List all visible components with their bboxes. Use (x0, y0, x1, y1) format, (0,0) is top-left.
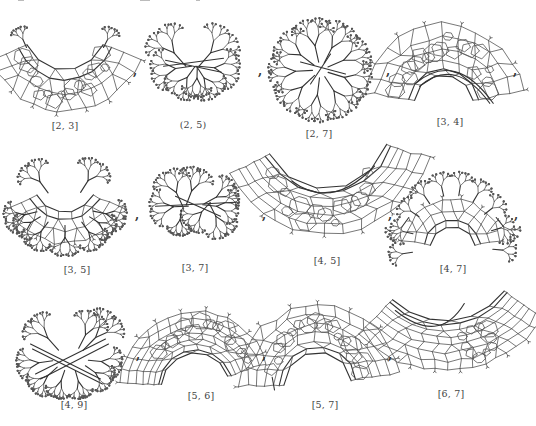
tessellation-figure-p23 (10, 25, 120, 115)
figure-label: [4, 7] (440, 263, 467, 274)
figure-label: [5, 7] (312, 399, 339, 410)
figure-label: [2, 3] (52, 120, 79, 131)
tessellation-figure-p27 (263, 20, 378, 120)
comma-separator: , (388, 348, 392, 362)
tessellation-graphic (138, 308, 253, 383)
clipped-caption-text (0, 0, 536, 4)
comma-separator: , (514, 208, 518, 222)
tessellation-figure-p45 (263, 166, 378, 241)
tessellation-graphic (10, 167, 120, 257)
comma-separator: , (136, 348, 140, 362)
tessellation-graphic (10, 308, 120, 393)
comma-separator: , (386, 64, 390, 78)
comma-separator: , (513, 64, 517, 78)
comma-separator: , (262, 208, 266, 222)
tessellation-graphic (393, 307, 508, 377)
comma-separator: , (135, 208, 139, 222)
tessellation-figure-p35 (10, 167, 120, 257)
comma-separator: , (133, 64, 137, 78)
figure-label: [3, 4] (437, 116, 464, 127)
tessellation-figure-p37 (138, 168, 253, 253)
tessellation-graphic (263, 166, 378, 241)
figure-label: [4, 9] (61, 399, 88, 410)
tessellation-graphic (136, 28, 251, 113)
tessellation-figure-p56 (138, 308, 253, 383)
tessellation-graphic (138, 168, 253, 253)
tessellation-figure-p57 (263, 305, 378, 390)
figure-label: [5, 6] (188, 390, 215, 401)
tessellation-graphic (263, 305, 378, 390)
tessellation-figure-p49 (10, 308, 120, 393)
tessellation-figure-p25 (136, 28, 251, 113)
tessellation-graphic (392, 20, 507, 105)
figure-label: [3, 7] (182, 262, 209, 273)
figure-label: [4, 5] (314, 255, 341, 266)
comma-separator: , (262, 348, 266, 362)
figure-label: (2, 5) (180, 119, 207, 130)
tessellation-graphic (395, 168, 510, 258)
figure-label: [3, 5] (64, 264, 91, 275)
tessellation-figure-p67 (393, 307, 508, 377)
comma-separator: , (258, 64, 262, 78)
figure-label: [6, 7] (438, 388, 465, 399)
tessellation-graphic (263, 20, 378, 120)
tessellation-figure-p34 (392, 20, 507, 105)
tessellation-figure-p47 (395, 168, 510, 258)
comma-separator: , (388, 208, 392, 222)
figure-label: [2, 7] (306, 128, 333, 139)
tessellation-graphic (10, 25, 120, 115)
